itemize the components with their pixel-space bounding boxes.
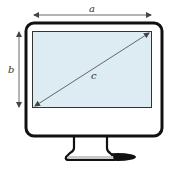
height-label: b [8,64,14,75]
width-label: a [89,3,95,14]
diagonal-label: c [91,70,97,81]
monitor-stand [66,136,115,160]
stand-base-plate [67,156,114,159]
monitor-diagram: a b c [0,0,172,170]
